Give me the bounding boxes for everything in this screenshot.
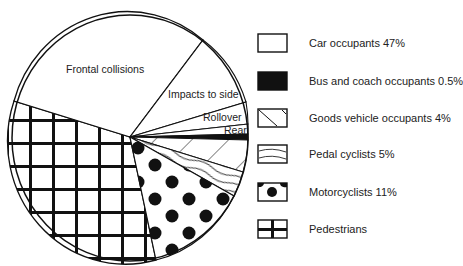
- label-impacts-to-side: Impacts to side: [168, 88, 239, 100]
- legend-item-pedal: Pedal cyclists 5%: [298, 144, 395, 164]
- legend-label: Pedestrians: [309, 223, 367, 235]
- legend-label: Bus and coach occupants 0.5%: [309, 75, 463, 87]
- legend-item-bus: Bus and coach occupants 0.5%: [298, 71, 463, 91]
- label-rollover: Rollover: [203, 111, 242, 123]
- label-rear: Rear: [224, 124, 247, 136]
- legend-label: Goods vehicle occupants 4%: [309, 112, 451, 124]
- swatch-diagonal-icon: [258, 109, 287, 127]
- legend-label: Pedal cyclists 5%: [309, 148, 395, 160]
- legend-item-motorcyclists: Motorcyclists 11%: [298, 182, 397, 202]
- legend-label: Car occupants 47%: [309, 37, 405, 49]
- swatch-grid-icon: [258, 220, 287, 238]
- legend-label: Motorcyclists 11%: [309, 186, 397, 198]
- swatch-blank-icon: [258, 34, 287, 52]
- swatch-solid-icon: [258, 72, 287, 90]
- swatch-wavy-icon: [258, 145, 287, 163]
- legend-item-car: Car occupants 47%: [298, 33, 405, 53]
- legend-item-pedestrians: Pedestrians: [298, 219, 367, 239]
- swatch-dots-icon: [258, 183, 287, 201]
- label-frontal-collisions: Frontal collisions: [66, 63, 144, 75]
- legend-swatches: [258, 34, 287, 238]
- legend-item-goods: Goods vehicle occupants 4%: [298, 108, 451, 128]
